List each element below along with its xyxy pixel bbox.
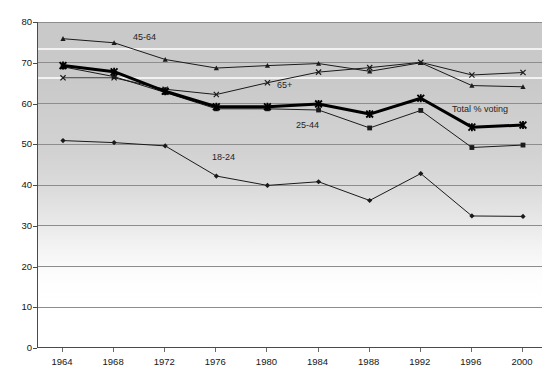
- y-tick-label-80: 80: [2, 16, 32, 27]
- x-tick-label-1992: 1992: [397, 356, 443, 367]
- y-tick-label-50: 50: [2, 138, 32, 149]
- x-tick-label-1980: 1980: [243, 356, 289, 367]
- series-layer: [38, 22, 542, 348]
- x-tick-mark-1984: [318, 348, 319, 352]
- x-tick-label-1984: 1984: [295, 356, 341, 367]
- series-label-45-64: 45-64: [133, 32, 156, 42]
- x-tick-mark-1972: [164, 348, 165, 352]
- x-tick-mark-2000: [522, 348, 523, 352]
- series-total-voting: [60, 62, 527, 132]
- y-tick-label-60: 60: [2, 98, 32, 109]
- x-tick-mark-1988: [369, 348, 370, 352]
- x-tick-label-2000: 2000: [499, 356, 545, 367]
- voter-turnout-line-chart: 01020304050607080 1964196819721976198019…: [0, 0, 555, 392]
- x-tick-label-1968: 1968: [90, 356, 136, 367]
- series-line: [63, 66, 523, 128]
- series-label-25-44: 25-44: [296, 120, 319, 130]
- data-point-marker-square: [367, 126, 372, 131]
- x-tick-mark-1976: [215, 348, 216, 352]
- y-tick-mark-0: [33, 348, 37, 349]
- y-tick-label-0: 0: [2, 342, 32, 353]
- data-point-marker-square: [521, 143, 526, 148]
- data-point-marker-diamond: [60, 138, 65, 143]
- data-point-marker-diamond: [163, 143, 168, 148]
- series-18-24: [60, 138, 525, 219]
- data-point-marker-square: [418, 108, 423, 113]
- data-point-marker-diamond: [112, 140, 117, 145]
- series-line: [63, 141, 523, 217]
- x-tick-mark-1968: [113, 348, 114, 352]
- y-tick-label-20: 20: [2, 261, 32, 272]
- x-tick-mark-1980: [266, 348, 267, 352]
- x-tick-mark-1992: [420, 348, 421, 352]
- series-label-65: 65+: [277, 80, 292, 90]
- x-tick-label-1972: 1972: [141, 356, 187, 367]
- y-tick-label-70: 70: [2, 57, 32, 68]
- x-tick-label-1988: 1988: [346, 356, 392, 367]
- series-label-18-24: 18-24: [212, 152, 235, 162]
- data-point-marker-square: [316, 108, 321, 113]
- y-tick-label-30: 30: [2, 220, 32, 231]
- x-tick-label-1976: 1976: [192, 356, 238, 367]
- x-tick-label-1996: 1996: [448, 356, 494, 367]
- x-tick-mark-1996: [471, 348, 472, 352]
- y-tick-label-10: 10: [2, 301, 32, 312]
- data-point-marker-diamond: [367, 198, 372, 203]
- data-point-marker-diamond: [265, 183, 270, 188]
- x-tick-label-1964: 1964: [39, 356, 85, 367]
- x-tick-mark-1964: [62, 348, 63, 352]
- data-point-marker-diamond: [214, 173, 219, 178]
- data-point-marker-diamond: [316, 179, 321, 184]
- y-tick-label-40: 40: [2, 179, 32, 190]
- plot-area: [37, 22, 542, 348]
- series-label-total-voting: Total % voting: [452, 104, 508, 114]
- data-point-marker-square: [469, 145, 474, 150]
- data-point-marker-diamond: [520, 214, 525, 219]
